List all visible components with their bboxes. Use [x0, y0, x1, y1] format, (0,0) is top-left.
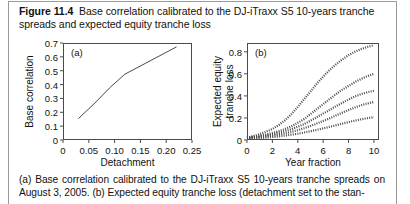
- y-tick-label: 0.5: [14, 65, 58, 76]
- data-series-line: [247, 74, 374, 138]
- x-tick-label: 0.20: [157, 145, 176, 156]
- data-series-line: [247, 102, 374, 138]
- y-tick-label: 0.4: [206, 90, 242, 101]
- data-series-line: [78, 47, 176, 119]
- y-tick-label: 0: [14, 135, 58, 146]
- page-border-top: [8, 1, 397, 2]
- x-tick-label: 0.10: [105, 145, 124, 156]
- x-tick-label: 10: [369, 145, 380, 156]
- figure-label: Figure 11.4: [19, 5, 73, 17]
- y-tick-label: 0.3: [14, 93, 58, 104]
- y-tick-label: 0.1: [14, 121, 58, 132]
- x-tick-label: 8: [346, 145, 351, 156]
- x-tick-label: 0: [60, 145, 65, 156]
- x-tick-label: 0.15: [131, 145, 150, 156]
- chart-panel-a: (a) Base correlation Detachment 00.10.20…: [14, 36, 208, 166]
- x-tick-label: 6: [320, 145, 325, 156]
- y-tick-label: 0.8: [206, 46, 242, 57]
- x-tick-label: 0: [244, 145, 249, 156]
- y-tick-label: 0.6: [206, 68, 242, 79]
- figure-caption: (a) Base correlation calibrated to the D…: [19, 173, 385, 199]
- x-tick-label: 0.25: [183, 145, 202, 156]
- y-tick-label: 0: [206, 135, 242, 146]
- figure-body: (a) Base correlation Detachment 00.10.20…: [8, 36, 396, 166]
- x-tick-label: 0.05: [80, 145, 99, 156]
- data-series-line: [247, 91, 374, 138]
- data-series-line: [247, 45, 374, 138]
- figure-heading: Figure 11.4 Base correlation calibrated …: [19, 5, 381, 31]
- y-tick-label: 0.2: [14, 107, 58, 118]
- y-tick-label: 0.2: [206, 112, 242, 123]
- chart-panel-b: (b) Expected equitytranche loss Year fra…: [206, 36, 396, 166]
- x-tick-label: 2: [270, 145, 275, 156]
- y-tick-label: 0.6: [14, 51, 58, 62]
- y-tick-label: 0.4: [14, 79, 58, 90]
- figure-page: Figure 11.4 Base correlation calibrated …: [0, 0, 410, 204]
- x-tick-label: 4: [295, 145, 300, 156]
- y-tick-label: 0.7: [14, 38, 58, 49]
